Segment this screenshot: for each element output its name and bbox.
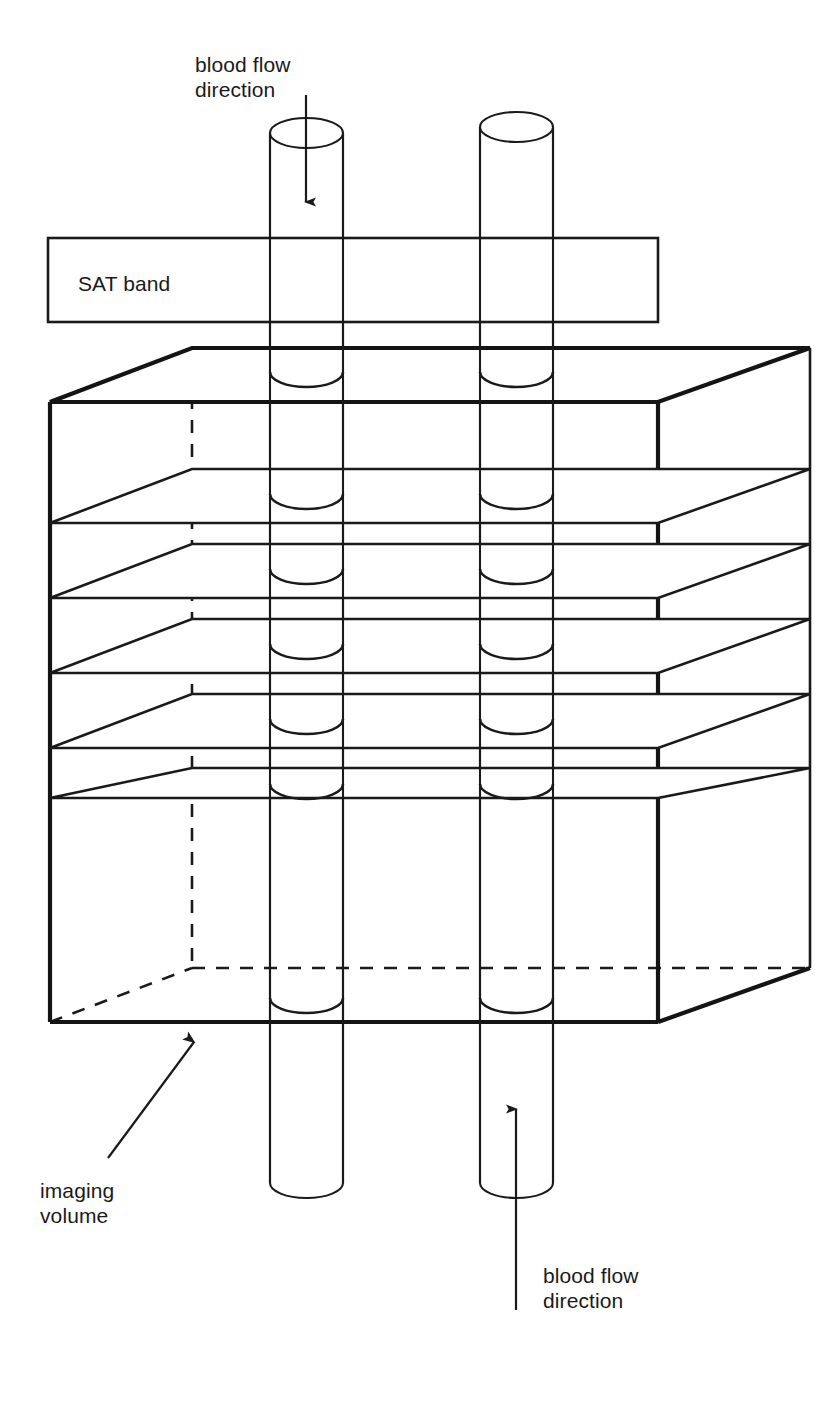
slice-plane-4-fill <box>50 694 810 748</box>
top-flow-label-line2: direction <box>195 78 275 101</box>
bottom-flow-label-line2: direction <box>543 1289 623 1312</box>
figure-root: blood flow direction SAT band <box>0 0 833 1410</box>
slice-plane-1 <box>50 469 810 523</box>
bottom-flow-label-line1: blood flow <box>543 1264 639 1287</box>
slice-plane-3 <box>50 619 810 673</box>
mri-imaging-volume-diagram: blood flow direction SAT band <box>0 0 833 1410</box>
imaging-volume-annotation: imaging volume <box>40 1042 194 1227</box>
sat-band-label: SAT band <box>78 272 170 295</box>
slice-plane-2 <box>50 544 810 598</box>
slice-plane-5-fill <box>50 768 810 798</box>
imaging-volume-box <box>50 348 810 1022</box>
imaging-volume-label-line2: volume <box>40 1204 108 1227</box>
slice-plane-1-fill <box>50 469 810 523</box>
top-flow-label-line1: blood flow <box>195 53 291 76</box>
slice-plane-4 <box>50 694 810 748</box>
slice-planes <box>50 469 810 798</box>
imaging-volume-label-line1: imaging <box>40 1179 114 1202</box>
slice-plane-2-fill <box>50 544 810 598</box>
box-hidden-bottom-left-diagonal <box>50 968 192 1022</box>
vessel-top-openings <box>270 112 553 148</box>
top-flow-label: blood flow direction <box>195 53 291 101</box>
sat-band: SAT band <box>48 238 658 322</box>
slice-plane-3-fill <box>50 619 810 673</box>
imaging-volume-leader-arrow-icon <box>108 1042 194 1158</box>
bottom-flow-label: blood flow direction <box>543 1264 639 1312</box>
box-top-face-fill <box>50 348 810 402</box>
slice-plane-5 <box>50 768 810 798</box>
box-bottom-right-diagonal <box>658 968 810 1022</box>
